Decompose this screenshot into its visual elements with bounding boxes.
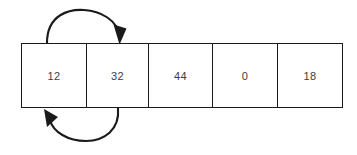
bottom-swap-arrowhead-icon xyxy=(44,109,58,127)
top-swap-arrow-path xyxy=(47,10,121,43)
bottom-swap-arrow-path xyxy=(50,108,118,141)
top-swap-arrowhead-icon xyxy=(114,25,127,45)
array-cell-4[interactable]: 18 xyxy=(278,44,343,108)
array-swap-diagram: 12 32 44 0 18 xyxy=(0,0,357,155)
array-cell-0[interactable]: 12 xyxy=(22,44,87,108)
array-cell-2[interactable]: 44 xyxy=(149,44,213,108)
top-swap-arrow xyxy=(47,10,127,45)
array-cell-3[interactable]: 0 xyxy=(213,44,278,108)
array-cell-1[interactable]: 32 xyxy=(87,44,149,108)
array-cells: 12 32 44 0 18 xyxy=(21,43,343,108)
bottom-swap-arrow xyxy=(44,108,118,141)
table-row: 12 32 44 0 18 xyxy=(22,44,343,108)
